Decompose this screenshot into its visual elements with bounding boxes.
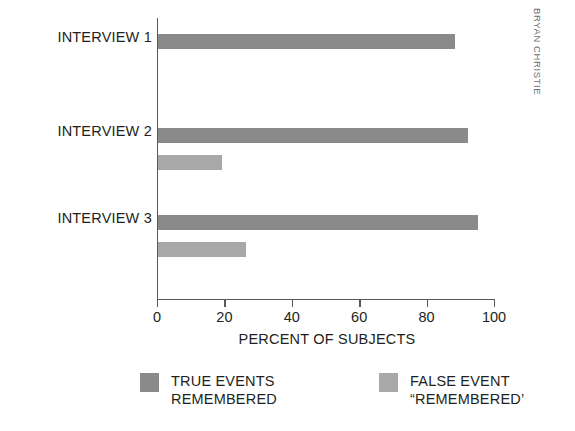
bar-interview-3-false xyxy=(158,242,246,257)
x-axis-tick-0 xyxy=(157,300,158,307)
legend-label-true-events-line1: TRUE EVENTS xyxy=(171,372,277,390)
legend-swatch-false-event xyxy=(379,373,398,392)
x-axis-tick-label-20: 20 xyxy=(216,309,232,325)
bar-interview-2-true xyxy=(158,128,468,143)
x-axis-tick-80 xyxy=(427,300,428,307)
bar-interview-2-false xyxy=(158,155,222,170)
category-axis-labels: INTERVIEW 1 INTERVIEW 2 INTERVIEW 3 xyxy=(0,0,152,300)
x-axis-tick-label-40: 40 xyxy=(284,309,300,325)
x-axis-tick-label-80: 80 xyxy=(419,309,435,325)
chart-legend: TRUE EVENTS REMEMBERED FALSE EVENT “REME… xyxy=(140,372,560,422)
legend-swatch-true-events xyxy=(140,373,159,392)
legend-label-false-event-line1: FALSE EVENT xyxy=(410,372,524,390)
legend-label-true-events: TRUE EVENTS REMEMBERED xyxy=(171,372,277,408)
x-axis-tick-label-100: 100 xyxy=(482,309,506,325)
bar-interview-1-true xyxy=(158,34,455,49)
legend-entry-true-events: TRUE EVENTS REMEMBERED xyxy=(140,372,277,408)
x-axis-tick-100 xyxy=(494,300,495,307)
plot-area: 0 20 40 60 80 100 xyxy=(157,18,502,300)
legend-label-true-events-line2: REMEMBERED xyxy=(171,390,277,408)
legend-label-false-event-line2: “REMEMBERED’ xyxy=(410,390,524,408)
x-axis-line xyxy=(157,299,495,300)
bar-interview-3-true xyxy=(158,215,478,230)
x-axis-tick-label-60: 60 xyxy=(351,309,367,325)
x-axis-tick-20 xyxy=(224,300,225,307)
x-axis-tick-60 xyxy=(359,300,360,307)
illustrator-credit: BRYAN CHRISTIE xyxy=(532,8,543,95)
category-label-interview-1: INTERVIEW 1 xyxy=(2,30,152,45)
x-axis-tick-label-0: 0 xyxy=(153,309,161,325)
x-axis-title: PERCENT OF SUBJECTS xyxy=(157,331,497,347)
category-label-interview-3: INTERVIEW 3 xyxy=(2,211,152,226)
category-label-interview-2: INTERVIEW 2 xyxy=(2,124,152,139)
x-axis-tick-40 xyxy=(292,300,293,307)
legend-label-false-event: FALSE EVENT “REMEMBERED’ xyxy=(410,372,524,408)
legend-entry-false-event: FALSE EVENT “REMEMBERED’ xyxy=(379,372,524,408)
bar-chart-figure: INTERVIEW 1 INTERVIEW 2 INTERVIEW 3 0 20… xyxy=(0,0,575,431)
